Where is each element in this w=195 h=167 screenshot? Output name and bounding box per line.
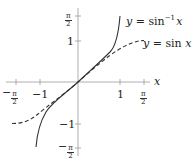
y-tick-label-neg-one: −1	[59, 119, 75, 130]
x-tick-label-pi-half: π2	[140, 87, 147, 106]
x-tick-label-neg-pi-half: −π2	[2, 87, 18, 106]
annot-x: x	[185, 37, 191, 50]
x-axis-label: x	[154, 76, 160, 87]
frac-den: 2	[141, 99, 145, 106]
frac-den: 2	[12, 99, 16, 106]
minus-sign: −	[2, 86, 11, 99]
y-tick-label-one: 1	[67, 36, 74, 47]
annot-sup: −1	[165, 14, 175, 22]
chart: x −π2 −1 1 π2 π2 1 −1 −π2 y = sin−1 x y …	[0, 0, 195, 167]
annot-x: x	[176, 15, 182, 28]
y-tick-label-pi-half: π2	[65, 9, 72, 28]
annot-eq: = sin	[149, 37, 185, 50]
x-tick-label-one: 1	[117, 89, 124, 100]
frac-den: 2	[66, 21, 70, 28]
sin-annotation: y = sin x	[143, 38, 191, 49]
frac-den: 2	[68, 153, 72, 160]
arcsin-annotation: y = sin−1 x	[126, 15, 182, 27]
x-tick-label-neg-one: −1	[32, 89, 48, 100]
annot-eq: = sin	[132, 15, 164, 28]
minus-sign: −	[58, 140, 67, 153]
y-tick-label-neg-pi-half: −π2	[58, 141, 74, 160]
